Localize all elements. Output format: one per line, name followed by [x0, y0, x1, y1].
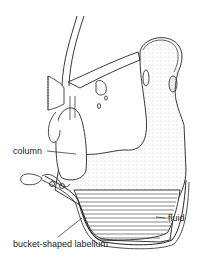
label-fluid: fluid: [168, 213, 185, 223]
drip-gland: [96, 80, 107, 108]
stalk: [62, 16, 84, 86]
label-labellum: bucket-shaped labellum: [13, 239, 108, 249]
fluid-area: [74, 190, 180, 240]
label-column: column: [13, 146, 42, 156]
column-shape: [56, 96, 87, 180]
